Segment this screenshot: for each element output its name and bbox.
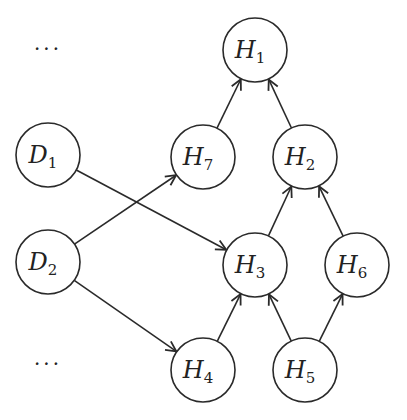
edge-h4-to-h3 <box>217 294 240 341</box>
ellipsis-layer: ······ <box>34 37 62 376</box>
edge-h2-to-h1 <box>269 79 292 128</box>
nodes-layer: H1H7H2D1D2H3H6H4H5 <box>16 18 389 402</box>
edge-h3-to-h2 <box>268 186 291 235</box>
graph-diagram: H1H7H2D1D2H3H6H4H5 ······ <box>0 0 407 420</box>
node-h5: H5 <box>273 338 337 402</box>
edge-d2-to-h7 <box>74 175 176 244</box>
node-h7: H7 <box>171 125 235 189</box>
node-h2: H2 <box>273 125 337 189</box>
ellipsis-top: ··· <box>34 37 62 61</box>
edge-h6-to-h2 <box>319 186 343 236</box>
node-d1: D1 <box>16 123 80 187</box>
edge-h5-to-h6 <box>319 294 342 341</box>
node-h4: H4 <box>171 338 235 402</box>
edge-h5-to-h3 <box>269 294 291 341</box>
node-h3: H3 <box>223 233 287 297</box>
node-h1: H1 <box>223 18 287 82</box>
edge-d2-to-h4 <box>74 280 176 351</box>
ellipsis-bottom: ··· <box>34 352 62 376</box>
node-d2: D2 <box>16 230 80 294</box>
edge-h7-to-h1 <box>217 79 241 128</box>
node-h6: H6 <box>325 233 389 297</box>
edges-layer <box>74 79 343 351</box>
